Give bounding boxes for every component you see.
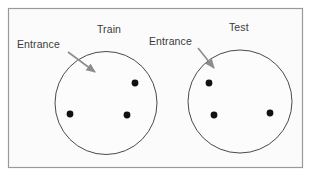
train-entrance-label: Entrance	[17, 38, 60, 50]
train-dot	[67, 111, 74, 118]
diagram-canvas	[0, 0, 310, 177]
test-dot	[267, 110, 274, 117]
train-circle	[55, 52, 157, 155]
train-dot	[124, 112, 131, 119]
test-dot	[211, 112, 218, 119]
test-dot	[206, 80, 213, 87]
train-dot	[132, 80, 139, 87]
train-title-label: Train	[97, 23, 121, 35]
test-circle	[188, 50, 292, 153]
test-entrance-label: Entrance	[149, 35, 192, 47]
figure-root: Train Test Entrance Entrance	[0, 0, 310, 177]
train-panel-group	[55, 52, 157, 155]
test-title-label: Test	[229, 21, 249, 33]
